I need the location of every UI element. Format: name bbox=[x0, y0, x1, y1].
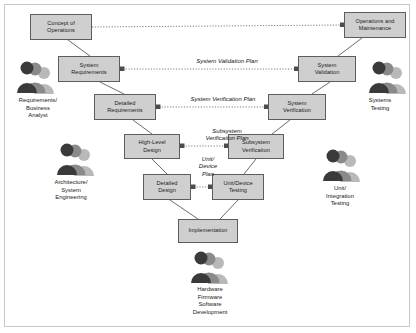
node-detailed-design[interactable]: Detailed Design bbox=[143, 174, 191, 200]
requirements-business-analyst-icon bbox=[14, 60, 60, 96]
node-detailed-requirements[interactable]: Detailed Requirements bbox=[94, 94, 156, 120]
node-label: Detailed Design bbox=[157, 180, 178, 194]
node-system-requirements[interactable]: System Requirements bbox=[58, 56, 120, 82]
requirements-business-analyst-label: Requirements/ Business Analyst bbox=[2, 97, 74, 120]
hardware-firmware-software-development-label: Hardware Firmware Software Development bbox=[162, 286, 258, 316]
label-subsystem-verification-plan: Subsystem Verification Plan bbox=[182, 128, 272, 143]
node-label: Detailed Requirements bbox=[107, 100, 142, 114]
systems-testing-icon bbox=[366, 60, 412, 96]
node-label: System Validation bbox=[315, 62, 340, 76]
architecture-system-engineering-label: Architecture/ System Engineering bbox=[30, 179, 112, 202]
node-label: Implementation bbox=[189, 227, 228, 234]
node-label: High-Level Design bbox=[138, 139, 165, 153]
label-system-validation-plan: System Validation Plan bbox=[167, 58, 287, 65]
label-unit-device-plan: Unit/ Device Plan bbox=[188, 156, 228, 178]
unit-integration-testing-icon bbox=[320, 148, 366, 184]
node-label: Unit/Device Testing bbox=[223, 180, 252, 194]
node-label: System Verification bbox=[283, 100, 311, 114]
node-system-validation[interactable]: System Validation bbox=[298, 56, 356, 82]
hardware-firmware-software-development-icon bbox=[188, 250, 234, 286]
node-operations-and-maintenance[interactable]: Operations and Maintenance bbox=[344, 12, 406, 38]
node-label: Operations and Maintenance bbox=[356, 18, 395, 32]
node-concept-of-operations[interactable]: Concept of Operations bbox=[30, 14, 92, 40]
node-implementation[interactable]: Implementation bbox=[178, 219, 238, 243]
node-label: System Requirements bbox=[71, 62, 106, 76]
systems-testing-label: Systems Testing bbox=[346, 97, 414, 112]
unit-integration-testing-label: Unit/ Integration Testing bbox=[300, 185, 380, 208]
node-high-level-design[interactable]: High-Level Design bbox=[124, 134, 180, 159]
label-system-verification-plan: System Verification Plan bbox=[163, 96, 283, 103]
node-label: Concept of Operations bbox=[47, 20, 75, 34]
v-model-diagram: Concept of Operations System Requirement… bbox=[0, 0, 416, 333]
architecture-system-engineering-icon bbox=[54, 142, 100, 178]
